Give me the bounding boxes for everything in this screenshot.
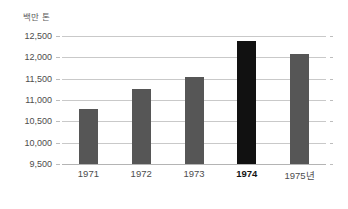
y-axis-tick-mark (56, 164, 60, 165)
bar (79, 109, 98, 164)
y-axis-tick-mark (330, 121, 333, 122)
y-axis-tick-mark (56, 57, 60, 58)
y-axis-tick-mark (56, 79, 60, 80)
x-axis-tick-labels: 19711972197319741975년 (62, 168, 326, 188)
y-axis-tick-label: 12,000 (24, 52, 52, 62)
y-axis-tick-mark (56, 121, 60, 122)
gridline (62, 164, 326, 165)
y-axis-tick-mark (56, 36, 60, 37)
y-axis-tick-mark (330, 143, 333, 144)
gridline (62, 36, 326, 37)
y-axis-title: 백만 톤 (23, 10, 50, 22)
y-axis-tick-label: 12,500 (24, 31, 52, 41)
gridline (62, 57, 326, 58)
y-axis-tick-mark (56, 143, 60, 144)
y-axis-tick-labels: 12,50012,00011,50011,00010,50010,0009,50… (0, 36, 52, 164)
y-axis-tick-mark (56, 100, 60, 101)
plot-area (62, 36, 326, 164)
y-axis-tick-mark (330, 79, 333, 80)
bar (185, 77, 204, 164)
x-axis-tick-label: 1972 (131, 168, 152, 179)
bar-chart: 백만 톤 12,50012,00011,50011,00010,50010,00… (0, 0, 348, 209)
bar (237, 41, 256, 164)
bar (290, 54, 309, 164)
bar (132, 89, 151, 164)
x-axis-tick-label: 1973 (183, 168, 204, 179)
y-axis-tick-mark (330, 36, 333, 37)
y-axis-tick-label: 9,500 (29, 159, 52, 169)
y-axis-tick-label: 10,000 (24, 138, 52, 148)
y-axis-tick-label: 11,000 (25, 95, 52, 105)
x-axis-tick-label: 1975년 (285, 168, 315, 182)
x-axis-tick-label: 1974 (236, 168, 257, 179)
y-axis-tick-mark (330, 164, 333, 165)
y-axis-tick-mark (330, 57, 333, 58)
y-axis-tick-label: 11,500 (25, 74, 52, 84)
y-axis-tick-label: 10,500 (24, 116, 52, 126)
y-axis-tick-mark (330, 100, 333, 101)
x-axis-tick-label: 1971 (78, 168, 99, 179)
